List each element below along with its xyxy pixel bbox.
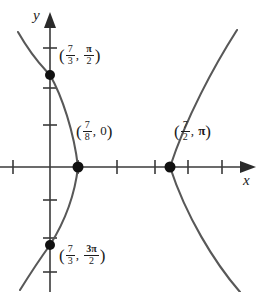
- label-fraction-theta: 3π2: [84, 244, 98, 266]
- point-label-vertex: (78, 0): [76, 121, 112, 143]
- fraction-numerator: 7: [181, 120, 190, 132]
- fraction-numerator: π: [84, 44, 93, 56]
- label-fraction-r: 73: [66, 244, 75, 266]
- y-axis-label: y: [33, 7, 40, 24]
- fraction-denominator: 8: [83, 132, 92, 143]
- label-fraction-theta: π2: [84, 44, 93, 66]
- label-open-paren: (: [59, 46, 65, 65]
- label-open-paren: (: [174, 122, 180, 141]
- point-marker-bottom: [45, 240, 55, 250]
- point-marker-right: [165, 162, 176, 173]
- label-comma: ,: [76, 47, 80, 62]
- label-close-paren: ): [205, 122, 211, 141]
- fraction-denominator: 2: [84, 56, 93, 67]
- label-close-paren: ): [95, 46, 101, 65]
- x-axis-label: x: [243, 172, 250, 189]
- point-marker-vertex: [73, 162, 84, 173]
- label-comma: ,: [93, 123, 97, 138]
- fraction-numerator: 7: [83, 120, 92, 132]
- label-comma: ,: [76, 247, 80, 262]
- fraction-denominator: 3: [66, 256, 75, 267]
- label-open-paren: (: [76, 122, 82, 141]
- y-axis-arrowhead: [44, 12, 56, 28]
- fraction-denominator: 2: [181, 132, 190, 143]
- label-fraction-r: 78: [83, 120, 92, 142]
- label-open-paren: (: [59, 246, 65, 265]
- label-comma: ,: [191, 123, 195, 138]
- label-close-paren: ): [100, 246, 106, 265]
- label-close-paren: ): [107, 122, 113, 141]
- fraction-denominator: 2: [84, 256, 98, 267]
- point-marker-top: [45, 70, 55, 80]
- polar-graph-figure: y x (73, π2) (78, 0) (72, π) (73, 3π2): [0, 0, 262, 292]
- label-fraction-r: 73: [66, 44, 75, 66]
- curve-right-branch: [170, 30, 240, 292]
- label-fraction-r: 72: [181, 120, 190, 142]
- fraction-numerator: 7: [66, 244, 75, 256]
- fraction-denominator: 3: [66, 56, 75, 67]
- fraction-numerator: 3π: [84, 244, 98, 256]
- point-label-bottom: (73, 3π2): [59, 245, 105, 267]
- point-label-right: (72, π): [174, 121, 211, 143]
- plot-canvas: [0, 0, 262, 292]
- point-label-top: (73, π2): [59, 45, 100, 67]
- fraction-numerator: 7: [66, 44, 75, 56]
